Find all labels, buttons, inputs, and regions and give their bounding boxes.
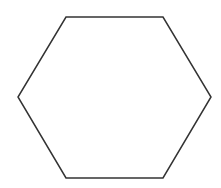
- diagram-canvas: [0, 0, 221, 188]
- hexagon-shape: [18, 17, 211, 178]
